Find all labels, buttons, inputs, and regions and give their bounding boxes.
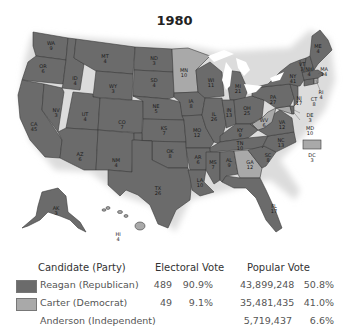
svg-text:FL17: FL17 — [271, 203, 277, 214]
popular-votes: 43,899,248 — [240, 279, 292, 290]
svg-text:MI21: MI21 — [235, 83, 241, 94]
svg-text:IN13: IN13 — [226, 107, 232, 118]
svg-text:GA12: GA12 — [246, 159, 254, 170]
electoral-votes: 49 — [150, 297, 172, 308]
header-electoral-vote: Electoral Vote — [155, 262, 224, 273]
popular-pct: 6.6% — [300, 315, 334, 326]
svg-text:MD10: MD10 — [306, 125, 314, 136]
svg-text:PA27: PA27 — [270, 94, 277, 105]
popular-pct: 50.8% — [300, 279, 334, 290]
popular-votes: 5,719,437 — [240, 315, 292, 326]
svg-text:WI11: WI11 — [208, 77, 214, 88]
svg-text:OH25: OH25 — [243, 105, 251, 116]
us-electoral-map: WA9 OR6 CA45 ID4 NV3 MT4 WY3 UT4 AZ6 CO7… — [0, 0, 349, 262]
svg-text:CA45: CA45 — [31, 121, 38, 132]
electoral-pct: 90.9% — [180, 279, 213, 290]
legend-row-reagan: Reagan (Republican) 489 90.9% 43,899,248… — [0, 279, 349, 295]
svg-text:TX26: TX26 — [154, 185, 162, 196]
swatch-republican — [16, 280, 37, 293]
electoral-votes: 489 — [150, 279, 172, 290]
svg-text:NY41: NY41 — [290, 73, 298, 84]
svg-text:HI4: HI4 — [115, 231, 120, 242]
swatch-democrat — [16, 298, 37, 311]
header-candidate: Candidate (Party) — [38, 262, 126, 273]
candidate-name: Reagan (Republican) — [40, 279, 139, 290]
svg-text:DC3: DC3 — [308, 152, 316, 163]
svg-text:NJ17: NJ17 — [296, 95, 302, 106]
svg-text:LA10: LA10 — [197, 177, 204, 188]
header-popular-vote: Popular Vote — [247, 262, 310, 273]
svg-text:NC13: NC13 — [277, 137, 285, 148]
svg-text:VA12: VA12 — [279, 119, 286, 130]
state-dc — [303, 140, 321, 149]
svg-text:MO12: MO12 — [193, 127, 201, 138]
svg-text:TN10: TN10 — [236, 140, 244, 151]
state-hi — [102, 207, 145, 230]
candidate-name: Carter (Democrat) — [40, 297, 127, 308]
legend-row-carter: Carter (Democrat) 49 9.1% 35,481,435 41.… — [0, 297, 349, 313]
electoral-pct: 9.1% — [180, 297, 213, 308]
popular-votes: 35,481,435 — [240, 297, 292, 308]
candidate-name: Anderson (Independent) — [40, 315, 156, 326]
popular-pct: 41.0% — [300, 297, 334, 308]
svg-text:MN10: MN10 — [180, 67, 188, 78]
legend-row-anderson: Anderson (Independent) 5,719,437 6.6% — [0, 315, 349, 331]
